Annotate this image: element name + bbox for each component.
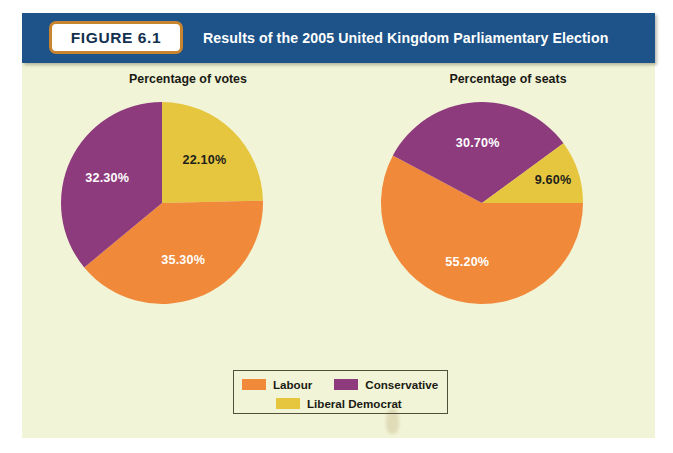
pie-chart-votes: Percentage of votes 22.10%35.30%32.30% [38,63,338,333]
figure-number-label: FIGURE 6.1 [71,29,161,47]
legend-row-bottom: Liberal Democrat [242,395,402,411]
pie-chart-votes-title: Percentage of votes [38,72,338,86]
pie-slice-label: 22.10% [182,153,226,167]
legend-label-conservative: Conservative [365,378,438,391]
legend-swatch-conservative [334,379,358,390]
legend-item-labour: Labour [242,378,312,391]
pie-slice-label: 35.30% [161,253,205,267]
chart-legend: Labour Conservative Liberal Democrat [233,370,448,414]
pie-chart-seats-svg: 55.20%30.70%9.60% [380,97,636,309]
pie-slices-seats [381,102,583,304]
legend-row-top: Labour Conservative [242,376,438,392]
pie-chart-seats: Percentage of seats 55.20%30.70%9.60% [358,63,658,333]
legend-item-liberal-democrat: Liberal Democrat [276,397,402,410]
figure-title: Results of the 2005 United Kingdom Parli… [203,13,608,63]
legend-swatch-liberal-democrat [276,398,300,409]
pie-slice-label: 55.20% [445,255,489,269]
pie-slice-label: 30.70% [456,136,500,150]
figure-number-badge: FIGURE 6.1 [49,21,183,54]
pie-chart-votes-svg: 22.10%35.30%32.30% [60,97,316,309]
pie-slices-votes [61,102,263,304]
pie-chart-seats-title: Percentage of seats [358,72,658,86]
legend-label-liberal-democrat: Liberal Democrat [307,397,402,410]
legend-swatch-labour [242,379,266,390]
chart-area: Percentage of votes 22.10%35.30%32.30% P… [22,63,655,438]
figure-root: FIGURE 6.1 Results of the 2005 United Ki… [0,0,673,453]
legend-item-conservative: Conservative [334,378,438,391]
pie-slice-label: 9.60% [535,173,572,187]
legend-label-labour: Labour [273,378,312,391]
figure-header-bar: FIGURE 6.1 Results of the 2005 United Ki… [22,13,655,63]
pie-slice-label: 32.30% [85,171,129,185]
